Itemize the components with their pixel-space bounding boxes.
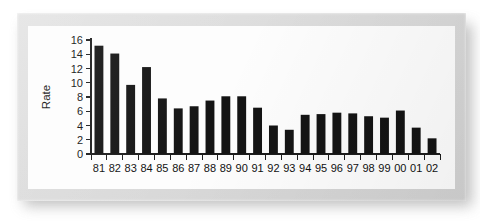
y-axis-title-label: Rate [40,85,52,109]
y-tick-label: 0 [77,148,83,160]
bar [221,96,230,154]
bar [253,108,262,154]
x-tick-label: 00 [394,162,406,174]
x-tick-label: 86 [172,162,184,174]
bar [380,118,389,154]
bar [285,130,294,154]
x-tick-label: 82 [109,162,121,174]
bar [269,126,278,155]
y-axis-title: Rate [40,85,52,109]
figure-root: 0246810121416 81828384858687888990919293… [0,0,480,221]
x-tick-label: 92 [267,162,279,174]
y-axis: 0246810121416 [71,34,91,160]
chart-plot-area: 0246810121416 81828384858687888990919293… [28,26,455,189]
bar [190,106,199,154]
bar [206,101,215,154]
x-tick-label: 02 [426,162,438,174]
bar [126,85,135,154]
x-axis: 8182838485868788899091929394959697989900… [91,154,440,174]
bar [317,114,326,154]
x-tick-label: 89 [220,162,232,174]
y-tick-label: 16 [71,34,83,46]
bar [94,46,103,154]
bar-chart: 0246810121416 81828384858687888990919293… [28,26,455,189]
y-tick-label: 8 [77,91,83,103]
x-tick-label: 99 [378,162,390,174]
x-tick-label: 81 [93,162,105,174]
y-tick-label: 6 [77,105,83,117]
y-tick-label: 2 [77,134,83,146]
bar [158,98,167,154]
x-tick-label: 83 [125,162,137,174]
x-tick-label: 87 [188,162,200,174]
bar [412,128,421,154]
bar [301,115,310,154]
bar [348,113,357,154]
bar [332,113,341,154]
y-tick-label: 4 [77,120,83,132]
bar [428,138,437,154]
y-tick-label: 10 [71,77,83,89]
y-tick-label: 14 [71,48,83,60]
bar [110,54,119,154]
bar-series [94,46,436,154]
x-tick-label: 94 [299,162,311,174]
x-tick-label: 91 [251,162,263,174]
x-tick-label: 96 [331,162,343,174]
bar [174,108,183,154]
x-tick-label: 88 [204,162,216,174]
x-tick-label: 85 [156,162,168,174]
bar [142,67,151,154]
x-tick-label: 90 [236,162,248,174]
x-tick-label: 97 [347,162,359,174]
x-tick-label: 98 [362,162,374,174]
chart-panel: 0246810121416 81828384858687888990919293… [28,26,455,189]
x-tick-label: 84 [140,162,152,174]
x-tick-label: 95 [315,162,327,174]
x-tick-label: 01 [410,162,422,174]
bar [237,96,246,154]
bar [396,111,405,154]
y-tick-label: 12 [71,63,83,75]
bar [364,116,373,154]
x-tick-label: 93 [283,162,295,174]
